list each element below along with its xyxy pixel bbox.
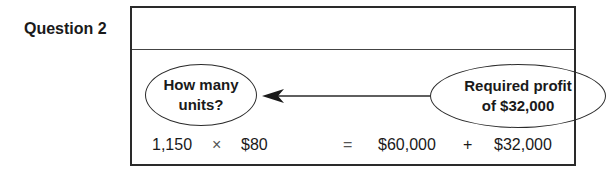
profit-oval-line2: of $32,000 [464, 96, 572, 116]
units-value: 1,150 [152, 136, 192, 154]
answer-box: How many units? Required profit of $32,0… [130, 6, 576, 166]
profit-oval: Required profit of $32,000 [430, 64, 606, 128]
profit-oval-line1: Required profit [464, 76, 572, 96]
profit-value: $32,000 [494, 136, 552, 154]
price-value: $80 [241, 136, 268, 154]
plus-sign: + [463, 136, 472, 154]
question-label: Question 2 [24, 20, 107, 38]
times-sign: × [212, 136, 221, 154]
equals-sign: = [343, 136, 352, 154]
fixed-cost-value: $60,000 [378, 136, 436, 154]
